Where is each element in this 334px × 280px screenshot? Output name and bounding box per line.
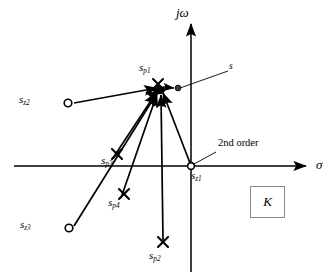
axis-label-sigma: σ <box>316 158 322 171</box>
marker-zero-sz2 <box>64 99 72 107</box>
vector-sp1-to-test-point <box>163 87 174 88</box>
label-zero-sz2: sz2 <box>19 94 30 107</box>
axis-label-sigma-text: σ <box>316 157 322 172</box>
gain-label-k: K <box>263 194 272 210</box>
marker-zero-sz3 <box>65 224 73 232</box>
label-zero-sz1: sz1 <box>191 170 202 183</box>
vector-from-sz2 <box>74 88 157 103</box>
label-zero-sz3: sz3 <box>20 219 31 232</box>
label-pole-sp1-sub: p1 <box>143 67 150 75</box>
label-pole-sp4-sub: p4 <box>112 202 119 210</box>
leader-line-2nd-order <box>194 152 216 164</box>
annotation-2nd-order: 2nd order <box>218 138 259 149</box>
label-pole-sp2: sp2 <box>149 250 161 263</box>
arrowhead-convergence-cluster <box>153 86 165 94</box>
gain-label-box: K <box>250 186 285 218</box>
annotation-2nd-order-text: 2nd order <box>218 137 259 148</box>
label-zero-sz2-sub: z2 <box>23 99 29 107</box>
figure-canvas: jω σ sp1 sp2 sp3 sp4 sz1 sz2 sz3 s 2nd o… <box>0 0 334 280</box>
axis-label-jomega: jω <box>176 6 189 19</box>
label-test-point-s-text: s <box>229 61 233 71</box>
vector-from-sp3 <box>113 93 156 158</box>
marker-test-point-s <box>175 85 181 91</box>
vector-from-sz1 <box>163 93 190 163</box>
label-zero-sz1-sub: z1 <box>195 175 201 183</box>
label-pole-sp4: sp4 <box>108 197 120 210</box>
label-zero-sz3-sub: z3 <box>24 224 30 232</box>
label-pole-sp3: sp3 <box>101 155 113 168</box>
vector-from-sp4 <box>121 94 157 198</box>
axis-label-j-text: jω <box>176 5 189 20</box>
label-pole-sp3-sub: p3 <box>105 160 112 168</box>
label-test-point-s: s <box>229 62 233 72</box>
leader-line-test-point <box>180 71 228 88</box>
vector-from-sp2 <box>161 95 163 240</box>
root-locus-diagram <box>0 0 334 280</box>
label-pole-sp1: sp1 <box>139 62 151 75</box>
label-pole-sp2-sub: p2 <box>153 255 160 263</box>
